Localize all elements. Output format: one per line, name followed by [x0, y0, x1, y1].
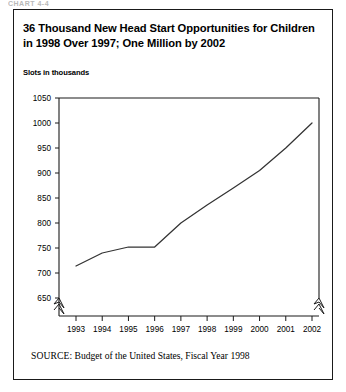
- x-axis-ticks: [76, 316, 312, 321]
- y-axis-tick-label: 850: [37, 194, 51, 203]
- source-text: Budget of the United States, Fiscal Year…: [75, 350, 250, 361]
- y-axis-tick-label: 800: [37, 219, 51, 228]
- page-header-fragment: CHART 4-4: [8, 0, 128, 8]
- data-series-line: [76, 123, 312, 266]
- y-axis-ticks: [55, 98, 59, 298]
- y-axis-tick-label: 900: [37, 169, 51, 178]
- y-axis-title: Slots in thousands: [23, 68, 89, 77]
- y-axis-tick-label: 700: [37, 269, 51, 278]
- x-axis-tick-labels: 1993199419951996199719981999200020012002: [67, 325, 322, 334]
- line-chart-svg: 65070075080085090095010001050 1993199419…: [14, 82, 332, 340]
- x-axis-tick-label: 1997: [172, 325, 191, 334]
- x-axis-tick-label: 1996: [146, 325, 165, 334]
- y-axis-tick-label: 950: [37, 144, 51, 153]
- y-axis-tick-labels: 65070075080085090095010001050: [33, 94, 52, 303]
- x-axis-tick-label: 2002: [303, 325, 322, 334]
- x-axis-tick-label: 1999: [224, 325, 243, 334]
- axis-break-right-icon: [314, 298, 324, 308]
- y-axis-tick-label: 1050: [33, 94, 52, 103]
- source-note: SOURCE: Budget of the United States, Fis…: [31, 350, 321, 361]
- x-axis-tick-label: 1994: [93, 325, 112, 334]
- source-label: SOURCE:: [31, 350, 72, 361]
- x-axis-tick-label: 1995: [119, 325, 138, 334]
- figure-container: 36 Thousand New Head Start Opportunities…: [13, 9, 333, 380]
- y-axis-tick-label: 1000: [33, 119, 52, 128]
- plot-area: 65070075080085090095010001050 1993199419…: [14, 82, 332, 340]
- x-axis-tick-label: 1998: [198, 325, 217, 334]
- chart-title: 36 Thousand New Head Start Opportunities…: [23, 21, 319, 50]
- x-axis-tick-label: 2000: [250, 325, 269, 334]
- x-axis-tick-label: 1993: [67, 325, 86, 334]
- y-axis-tick-label: 750: [37, 244, 51, 253]
- x-axis-tick-label: 2001: [277, 325, 296, 334]
- y-axis-tick-label: 650: [37, 294, 51, 303]
